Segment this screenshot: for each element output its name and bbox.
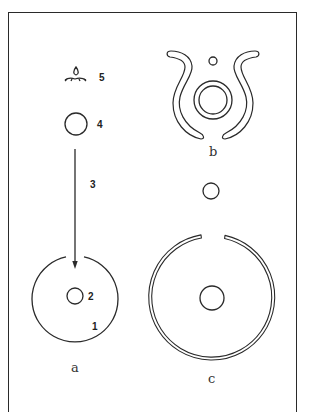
panel-label-b: b (209, 144, 217, 159)
panel-c: c (149, 183, 275, 386)
circle-4 (65, 113, 87, 135)
small-circle-c (203, 183, 219, 199)
center-circle-c (200, 286, 224, 310)
panel-label-a: a (71, 360, 79, 375)
small-circle-b (209, 57, 217, 65)
panel-b: b (167, 51, 259, 159)
outer-circle-b (194, 81, 232, 119)
open-double-ring (149, 235, 275, 360)
flame-icon (65, 67, 86, 81)
label-1: 1 (92, 321, 98, 332)
panel-label-c: c (208, 371, 215, 386)
arrow-down-icon (72, 149, 77, 269)
right-horn-shape (222, 51, 258, 139)
panel-a: 5 4 3 2 1 a (32, 67, 118, 375)
enclosure-ring-1 (32, 257, 118, 342)
circle-2 (67, 288, 83, 304)
label-5: 5 (99, 72, 105, 83)
label-2: 2 (88, 291, 94, 302)
left-horn-shape (167, 51, 203, 139)
label-3: 3 (90, 179, 96, 190)
label-4: 4 (97, 119, 103, 130)
inner-circle-b (199, 86, 227, 114)
